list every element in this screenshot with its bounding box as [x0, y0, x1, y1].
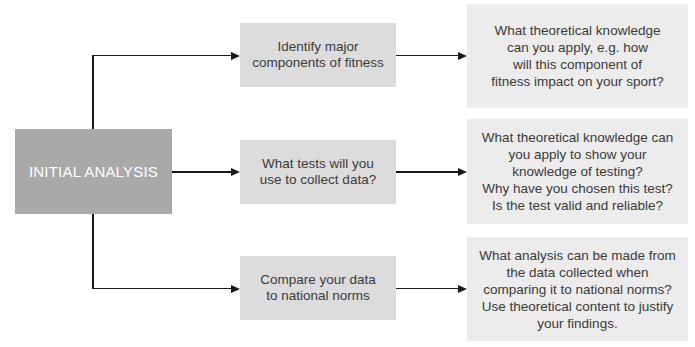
- arrow-head-icon: [458, 52, 467, 60]
- detail-box-compare: What analysis can be made from the data …: [467, 237, 688, 341]
- initial-analysis-label: INITIAL ANALYSIS: [29, 163, 158, 180]
- initial-analysis-box: INITIAL ANALYSIS: [15, 129, 172, 214]
- detail-box-tests: What theoretical knowledge can you apply…: [467, 119, 688, 224]
- arrow-head-icon: [458, 285, 467, 293]
- connector-trunk-down: [92, 214, 94, 288]
- arrow-head-icon: [231, 52, 240, 60]
- arrow-head-icon: [231, 285, 240, 293]
- step-box-tests: What tests will you use to collect data?: [240, 140, 396, 204]
- step-box-compare: Compare your data to national norms: [240, 256, 396, 320]
- detail-text: What theoretical knowledge can you apply…: [482, 129, 673, 214]
- arrow-head-icon: [231, 168, 240, 176]
- step-box-components: Identify major components of fitness: [240, 23, 396, 87]
- connector-step1-detail: [396, 55, 459, 57]
- detail-text: What analysis can be made from the data …: [479, 247, 676, 332]
- detail-box-components: What theoretical knowledge can you apply…: [467, 4, 688, 108]
- connector-bottom-horizontal: [92, 288, 232, 290]
- detail-text: What theoretical knowledge can you apply…: [491, 22, 664, 90]
- step-label: Identify major components of fitness: [252, 39, 383, 71]
- connector-top-horizontal: [92, 55, 232, 57]
- step-label: Compare your data to national norms: [260, 272, 376, 304]
- connector-trunk-up: [92, 55, 94, 129]
- step-label: What tests will you use to collect data?: [260, 156, 376, 188]
- connector-middle-horizontal: [172, 171, 232, 173]
- arrow-head-icon: [458, 168, 467, 176]
- connector-step2-detail: [396, 171, 459, 173]
- connector-step3-detail: [396, 288, 459, 290]
